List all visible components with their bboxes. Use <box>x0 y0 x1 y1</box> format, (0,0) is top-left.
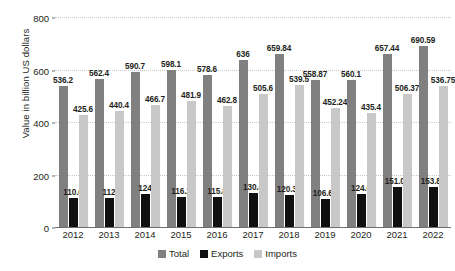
bar-value-label: 659.84 <box>267 44 291 53</box>
legend-swatch-exports-icon <box>200 250 208 258</box>
bar-imports-2015: 481.9 <box>187 101 196 227</box>
bar-imports-2016: 462.8 <box>223 106 232 227</box>
bar-value-label: 590.7 <box>125 62 145 71</box>
bar-group-2013: 562.4112440.4 <box>91 10 127 227</box>
bar-value-label: 481.9 <box>181 91 201 100</box>
bar-value-label: 505.6 <box>253 84 273 93</box>
bar-value-label: 690.59 <box>411 36 435 45</box>
bar-exports-2022: 153.84 <box>429 187 438 227</box>
y-tick-label-400: 400 <box>33 118 49 129</box>
legend-item-exports[interactable]: Exports <box>200 248 243 259</box>
x-axis-label-2022: 2022 <box>415 229 451 240</box>
x-axis-label-2021: 2021 <box>379 229 415 240</box>
bar-imports-2022: 536.75 <box>439 86 448 227</box>
bar-imports-2017: 505.6 <box>259 94 268 227</box>
bar-total-2012: 536.2 <box>59 86 68 227</box>
bar-exports-2012: 110.6 <box>69 198 78 227</box>
legend-label: Total <box>169 248 189 259</box>
x-axis-label-2012: 2012 <box>55 229 91 240</box>
bar-group-2014: 590.7124466.7 <box>127 10 163 227</box>
bar-value-label: 657.44 <box>375 44 399 53</box>
bar-value-label: 578.6 <box>197 65 217 74</box>
legend-swatch-imports-icon <box>254 250 262 258</box>
bar-total-2021: 657.44 <box>383 54 392 227</box>
x-axis-label-2018: 2018 <box>271 229 307 240</box>
bar-imports-2013: 440.4 <box>115 111 124 227</box>
bar-exports-2017: 130.4 <box>249 193 258 227</box>
bar-groups: 536.2110.6425.6562.4112440.4590.7124466.… <box>55 10 451 227</box>
x-axis-label-2014: 2014 <box>127 229 163 240</box>
bar-value-label: 435.4 <box>361 103 381 112</box>
bar-total-2013: 562.4 <box>95 79 104 227</box>
bar-value-label: 636 <box>236 50 249 59</box>
y-tick-label-800: 800 <box>33 13 49 24</box>
bar-chart: Value in billion US dollars 020040060080… <box>0 0 455 271</box>
y-axis-title: Value in billion US dollars <box>20 0 31 169</box>
bar-imports-2021: 506.37 <box>403 94 412 227</box>
bar-total-2014: 590.7 <box>131 72 140 227</box>
bar-imports-2018: 539.5 <box>295 85 304 227</box>
bar-total-2018: 659.84 <box>275 54 284 227</box>
bar-total-2015: 598.1 <box>167 70 176 227</box>
y-tick-label-0: 0 <box>44 223 49 234</box>
legend-label: Imports <box>265 248 297 259</box>
bar-exports-2021: 151.07 <box>393 187 402 227</box>
x-axis-label-2019: 2019 <box>307 229 343 240</box>
bar-imports-2012: 425.6 <box>79 115 88 227</box>
bar-value-label: 536.75 <box>431 76 455 85</box>
bar-imports-2019: 452.24 <box>331 108 340 227</box>
bar-group-2020: 560.1124.6435.4 <box>343 10 379 227</box>
bar-exports-2013: 112 <box>105 198 114 227</box>
bar-total-2017: 636 <box>239 60 248 227</box>
bar-exports-2020: 124.6 <box>357 194 366 227</box>
x-axis-label-2017: 2017 <box>235 229 271 240</box>
bar-exports-2015: 116.2 <box>177 197 186 228</box>
bar-total-2022: 690.59 <box>419 46 428 227</box>
bar-value-label: 536.2 <box>53 76 73 85</box>
bar-exports-2014: 124 <box>141 194 150 227</box>
bar-total-2020: 560.1 <box>347 80 356 227</box>
bar-group-2022: 690.59153.84536.75 <box>415 10 451 227</box>
plot-area: 0200400600800 536.2110.6425.6562.4112440… <box>55 10 451 227</box>
bar-value-label: 560.1 <box>341 70 361 79</box>
bar-value-label: 466.7 <box>145 95 165 104</box>
bar-exports-2019: 106.63 <box>321 199 330 227</box>
bar-imports-2020: 435.4 <box>367 113 376 227</box>
bar-imports-2014: 466.7 <box>151 105 160 228</box>
bar-value-label: 440.4 <box>109 101 129 110</box>
bar-total-2016: 578.6 <box>203 75 212 227</box>
x-axis-labels: 2012201320142015201620172018201920202021… <box>55 229 451 240</box>
bar-exports-2016: 115.8 <box>213 197 222 227</box>
bar-value-label: 462.8 <box>217 96 237 105</box>
legend-item-imports[interactable]: Imports <box>254 248 297 259</box>
bar-value-label: 558.87 <box>303 70 327 79</box>
bar-total-2019: 558.87 <box>311 80 320 227</box>
x-axis-label-2013: 2013 <box>91 229 127 240</box>
x-axis-label-2015: 2015 <box>163 229 199 240</box>
bar-value-label: 562.4 <box>89 69 109 78</box>
legend-item-total[interactable]: Total <box>158 248 189 259</box>
bar-group-2016: 578.6115.8462.8 <box>199 10 235 227</box>
bar-group-2021: 657.44151.07506.37 <box>379 10 415 227</box>
bar-value-label: 598.1 <box>161 60 181 69</box>
bar-value-label: 425.6 <box>73 105 93 114</box>
gridline-0: 0 <box>55 227 451 228</box>
x-axis-label-2020: 2020 <box>343 229 379 240</box>
x-axis-label-2016: 2016 <box>199 229 235 240</box>
bar-group-2018: 659.84120.34539.5 <box>271 10 307 227</box>
chart-legend: TotalExportsImports <box>0 248 455 259</box>
bar-exports-2018: 120.34 <box>285 195 294 227</box>
bar-group-2019: 558.87106.63452.24 <box>307 10 343 227</box>
bar-group-2015: 598.1116.2481.9 <box>163 10 199 227</box>
bar-group-2012: 536.2110.6425.6 <box>55 10 91 227</box>
y-tick-label-200: 200 <box>33 170 49 181</box>
legend-label: Exports <box>211 248 243 259</box>
legend-swatch-total-icon <box>158 250 166 258</box>
y-tick-label-600: 600 <box>33 65 49 76</box>
bar-group-2017: 636130.4505.6 <box>235 10 271 227</box>
